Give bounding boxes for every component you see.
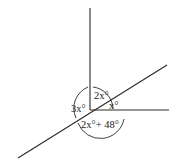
left-angle-label: 3x° [71,103,86,114]
top-angle-label: 2x° [94,90,109,101]
diagonal-line [18,65,167,158]
bottom-angle-label: 2x°+ 48° [81,119,119,130]
right-angle-label: x° [109,100,118,111]
angle-diagram: 3x° 2x° x° 2x°+ 48° [0,0,179,165]
